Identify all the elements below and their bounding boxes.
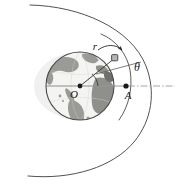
orbit-diagram-canvas: r θ O A xyxy=(0,0,175,184)
label-true-anomaly: θ xyxy=(134,60,140,74)
label-perigee-point: A xyxy=(124,89,132,101)
satellite-marker xyxy=(112,55,118,61)
center-point-marker xyxy=(78,84,83,89)
orbit-diagram-figure: r θ O A xyxy=(0,0,175,184)
label-radius-vector: r xyxy=(93,40,98,52)
perigee-point-marker xyxy=(123,83,128,88)
label-center-point: O xyxy=(70,88,78,100)
